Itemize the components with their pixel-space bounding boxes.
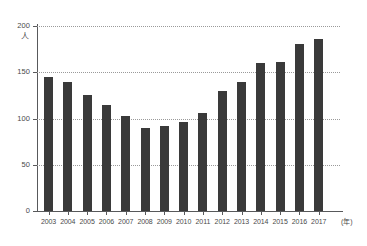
bar xyxy=(141,128,150,211)
bar xyxy=(218,91,227,211)
bar xyxy=(276,62,285,211)
bar xyxy=(237,82,246,212)
x-axis-tick xyxy=(184,212,185,215)
x-axis-tick xyxy=(280,212,281,215)
x-axis-tick-label: 2017 xyxy=(306,217,332,226)
x-axis-tick xyxy=(299,212,300,215)
bar-chart-figure: 人 050100150200 2003200420052006200720082… xyxy=(0,0,367,246)
bar xyxy=(295,44,304,211)
bar xyxy=(102,105,111,211)
bar xyxy=(314,39,323,211)
x-axis-tick xyxy=(164,212,165,215)
bar xyxy=(256,63,265,211)
y-axis-tick-label: 150 xyxy=(4,68,30,76)
x-axis-tick xyxy=(126,212,127,215)
x-axis-tick xyxy=(203,212,204,215)
x-axis-tick xyxy=(49,212,50,215)
y-axis-unit-label: 人 xyxy=(21,32,29,41)
x-axis-tick xyxy=(319,212,320,215)
bar xyxy=(121,116,130,211)
bar xyxy=(63,82,72,211)
x-axis-unit-label: (年) xyxy=(341,217,353,226)
bar xyxy=(160,126,169,211)
y-axis-tick-label: 100 xyxy=(4,115,30,123)
bar xyxy=(83,95,92,211)
bar xyxy=(44,77,53,211)
x-axis-line xyxy=(37,211,343,212)
plot-area xyxy=(37,26,340,211)
y-axis-tick-label: 50 xyxy=(4,161,30,169)
x-axis-tick xyxy=(222,212,223,215)
bar xyxy=(179,122,188,211)
x-axis-tick xyxy=(242,212,243,215)
y-axis-tick-label: 0 xyxy=(4,207,30,215)
bar xyxy=(198,113,207,211)
x-axis-tick xyxy=(87,212,88,215)
x-axis-tick xyxy=(68,212,69,215)
y-axis-tick xyxy=(33,211,37,212)
x-axis-tick xyxy=(145,212,146,215)
x-axis-tick xyxy=(261,212,262,215)
x-axis-tick xyxy=(106,212,107,215)
y-axis-tick-label: 200 xyxy=(4,22,30,30)
